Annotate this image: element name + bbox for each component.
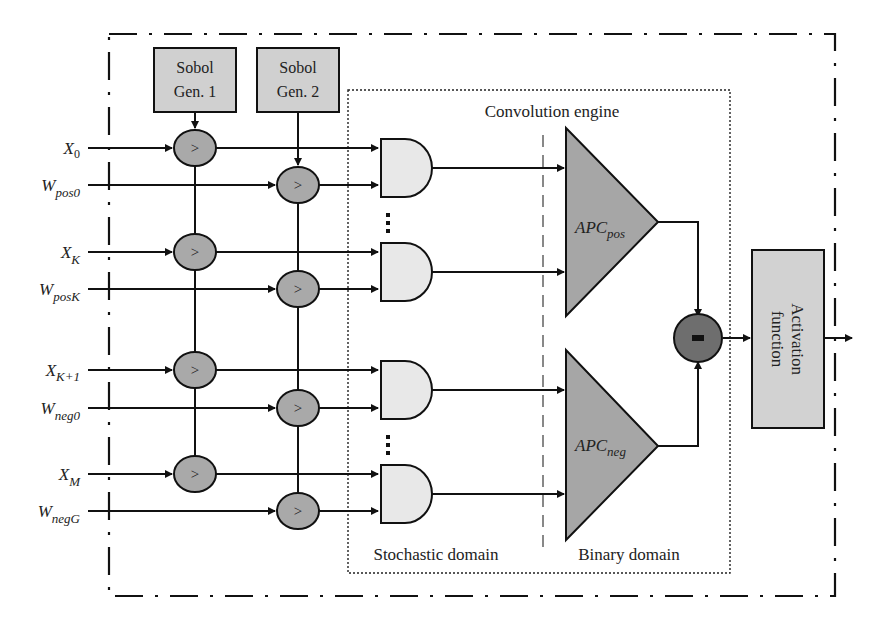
svg-text:X0: X0 xyxy=(63,139,80,161)
svg-text:>: > xyxy=(294,177,302,193)
svg-text:WnegG: WnegG xyxy=(38,502,81,526)
svg-text:XM: XM xyxy=(58,465,81,489)
svg-text:>: > xyxy=(191,466,199,482)
svg-text:XK: XK xyxy=(60,243,81,267)
svg-text:XK+1: XK+1 xyxy=(45,361,80,384)
svg-text:>: > xyxy=(294,281,302,297)
svg-text:>: > xyxy=(294,400,302,416)
sobol-gen-1-line2: Gen. 1 xyxy=(174,83,217,100)
sobol-gen-1-line1: Sobol xyxy=(176,59,214,76)
activation-label: Activation function xyxy=(768,303,807,375)
sobol-generator-1 xyxy=(154,48,236,112)
engine-label: Convolution engine xyxy=(485,102,620,121)
svg-text:Wpos0: Wpos0 xyxy=(41,176,80,200)
sobol-gen-2-line2: Gen. 2 xyxy=(277,83,320,100)
binary-domain-label: Binary domain xyxy=(578,545,680,564)
activation-function-box xyxy=(752,250,824,428)
svg-text:>: > xyxy=(191,244,199,260)
svg-text:function: function xyxy=(768,311,787,368)
sobol-gen-2-line1: Sobol xyxy=(279,59,317,76)
input-labels: X0 Wpos0 XK WposK XK+1 Wneg0 XM WnegG xyxy=(38,139,82,526)
svg-text:WposK: WposK xyxy=(39,280,81,304)
sobol-generator-2 xyxy=(257,48,339,112)
svg-text:>: > xyxy=(294,503,302,519)
diagram-canvas: Sobol Gen. 1 Sobol Gen. 2 > > > > > > > … xyxy=(0,0,876,629)
svg-text:>: > xyxy=(191,362,199,378)
subtractor xyxy=(674,314,722,362)
svg-text:Wneg0: Wneg0 xyxy=(41,399,81,423)
svg-text:>: > xyxy=(191,140,199,156)
input-wires xyxy=(88,148,378,511)
stochastic-domain-label: Stochastic domain xyxy=(373,545,499,564)
svg-text:Activation: Activation xyxy=(788,303,807,375)
and-gates xyxy=(381,139,432,523)
